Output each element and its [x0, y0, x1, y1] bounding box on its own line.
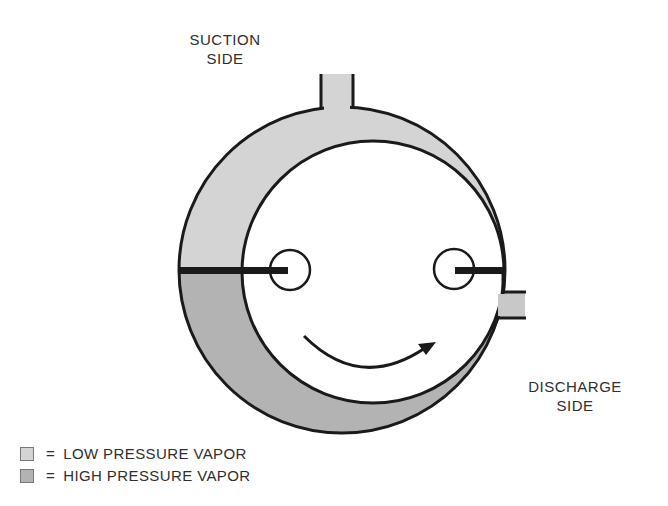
legend-item-low-pressure: = LOW PRESSURE VAPOR: [20, 445, 247, 462]
suction-side-label: SUCTION SIDE: [170, 30, 280, 68]
discharge-label-line2: SIDE: [515, 396, 635, 415]
legend-text-low: LOW PRESSURE VAPOR: [63, 445, 247, 462]
discharge-side-label: DISCHARGE SIDE: [515, 377, 635, 415]
low-pressure-swatch: [20, 447, 34, 461]
suction-label-line1: SUCTION: [170, 30, 280, 49]
legend-text-high: HIGH PRESSURE VAPOR: [63, 467, 250, 484]
compressor-diagram: [0, 0, 668, 506]
left-vane: [180, 267, 288, 274]
right-vane: [455, 267, 505, 274]
discharge-port-wall-bottom: [493, 318, 526, 330]
legend-item-high-pressure: = HIGH PRESSURE VAPOR: [20, 467, 251, 484]
high-pressure-swatch: [20, 469, 34, 483]
housing: [179, 74, 526, 433]
suction-label-line2: SIDE: [170, 49, 280, 68]
discharge-label-line1: DISCHARGE: [515, 377, 635, 396]
legend-equals: =: [46, 445, 55, 462]
legend-equals: =: [46, 467, 55, 484]
